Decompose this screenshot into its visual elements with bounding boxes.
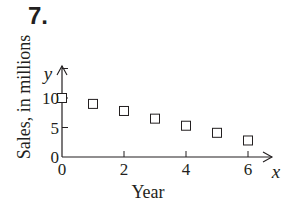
x-tick-label: 2: [120, 160, 129, 179]
data-point-square: [244, 136, 253, 145]
data-point-square: [213, 128, 222, 137]
data-point-square: [89, 99, 98, 108]
y-axis-title: Sales, in millions: [14, 35, 34, 160]
scatter-chart: 02460510xyYearSales, in millions: [0, 0, 291, 220]
x-tick-label: 6: [244, 160, 253, 179]
y-tick-label: 5: [51, 119, 60, 138]
x-axis-title: Year: [131, 182, 164, 202]
axes: [57, 66, 272, 162]
y-tick-label: 0: [51, 148, 60, 167]
data-points: [58, 94, 253, 145]
x-variable-label: x: [271, 161, 281, 182]
data-point-square: [120, 106, 129, 115]
data-point-square: [151, 114, 160, 123]
y-tick-label: 10: [42, 89, 59, 108]
x-tick-label: 0: [58, 160, 67, 179]
data-point-square: [182, 121, 191, 130]
axis-labels: 02460510xyYearSales, in millions: [14, 35, 281, 202]
y-variable-label: y: [42, 63, 53, 84]
x-tick-label: 4: [182, 160, 191, 179]
